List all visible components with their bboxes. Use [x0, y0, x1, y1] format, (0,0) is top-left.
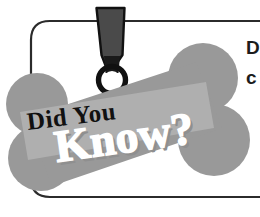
did-you-know-graphic: Did You Know? Know? D c	[0, 0, 260, 217]
headline-label: Did You Know? Know?	[0, 0, 260, 217]
